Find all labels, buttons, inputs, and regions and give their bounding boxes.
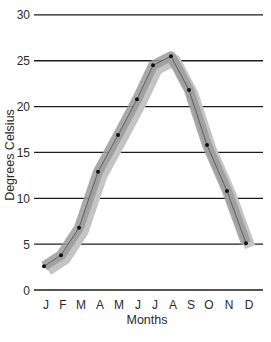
data-point-2 [77,226,81,230]
data-point-9 [205,143,209,147]
x-tick-label: M [114,298,124,312]
data-point-8 [187,88,191,92]
x-tick-label: J [43,298,49,312]
temperature-line-chart: 051015202530 JFMAMJJASOND Degrees Celsiu… [0,0,271,342]
y-tick-label: 15 [17,146,31,160]
x-tick-label: A [96,298,104,312]
data-point-6 [151,63,155,67]
x-axis-month-labels: JFMAMJJASOND [43,298,254,312]
data-point-4 [116,133,120,137]
data-point-7 [169,54,173,58]
y-tick-label: 10 [17,192,31,206]
x-tick-label: O [204,298,213,312]
data-point-11 [244,241,248,245]
data-point-1 [59,253,63,257]
x-tick-label: N [225,298,234,312]
x-tick-label: A [169,298,177,312]
data-point-5 [135,97,139,101]
x-tick-label: J [152,298,158,312]
x-axis-label: Months [127,313,168,327]
y-tick-label: 5 [23,238,30,252]
x-tick-label: M [76,298,86,312]
y-tick-label: 30 [17,8,31,22]
y-tick-label: 25 [17,54,31,68]
data-point-3 [96,170,100,174]
y-tick-label: 20 [17,100,31,114]
y-axis-ticks: 051015202530 [17,8,31,297]
y-axis-label: Degrees Celsius [3,109,17,201]
x-tick-label: S [187,298,195,312]
y-tick-label: 0 [23,284,30,298]
x-tick-label: F [59,298,66,312]
data-point-10 [225,189,229,193]
data-point-0 [42,264,46,268]
x-tick-label: D [245,298,254,312]
x-tick-label: J [135,298,141,312]
data-band [44,56,250,270]
